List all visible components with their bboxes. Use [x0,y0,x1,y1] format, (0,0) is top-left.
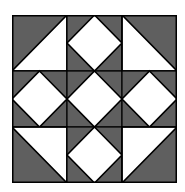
quilt-cell-triangle-light-bottom-left [122,15,177,71]
quilt-cell-triangle-light-bottom-right [12,15,67,71]
quilt-cell-diamond [67,127,122,183]
quilt-cell-triangle-light-top-right [12,127,67,183]
quilt-cell-diamond [67,15,122,71]
quilt-cell-diamond [122,71,177,127]
quilt-cell-triangle-light-top-left [122,127,177,183]
quilt-cell-diamond [67,71,122,127]
quilt-cell-diamond [12,71,67,127]
quilt-block [12,15,177,183]
